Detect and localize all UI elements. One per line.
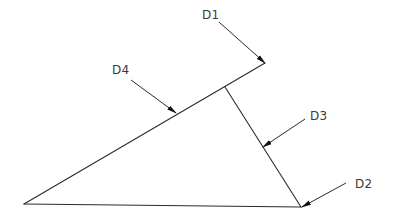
base-edge (24, 204, 301, 207)
leader-d4-arrow-icon (131, 80, 176, 113)
leader-d2-arrow-icon (302, 183, 346, 207)
label-d2: D2 (355, 178, 372, 190)
leader-d1-arrow-icon (219, 22, 265, 63)
label-d3: D3 (310, 110, 327, 122)
label-d4: D4 (112, 64, 129, 76)
leader-d3-arrow-icon (263, 119, 305, 147)
label-d1: D1 (202, 9, 219, 21)
triangle-diagram (0, 0, 393, 222)
long-edge (24, 63, 265, 204)
